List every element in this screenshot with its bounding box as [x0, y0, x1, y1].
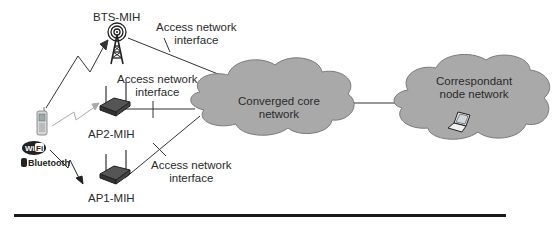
wireless-link-bts — [46, 40, 108, 108]
cell-tower-icon — [108, 23, 126, 64]
bts-label: BTS-MIH — [93, 11, 140, 24]
core-network-label: Converged core network — [238, 95, 320, 121]
interface-label-ap2: Access network interface — [117, 73, 198, 99]
interface-tick-ap1 — [153, 143, 166, 156]
horizontal-rule — [14, 214, 506, 217]
interface-label-ap1: Access network interface — [151, 159, 232, 185]
wireless-router-icon-ap1 — [100, 150, 130, 184]
wifi-logo-text-fi: Fi — [36, 144, 43, 153]
wifi-logo-text-wi: Wi — [25, 144, 35, 153]
interface-label-bts: Access network interface — [156, 21, 237, 47]
wireless-link-ap2 — [52, 103, 99, 126]
ap2-label: AP2-MIH — [88, 128, 135, 141]
ap1-label: AP1-MIH — [88, 192, 135, 205]
mobile-phone-icon — [37, 107, 47, 135]
bluetooth-logo-icon — [21, 158, 27, 167]
bluetooth-logo-text: Bluetooth — [28, 158, 70, 168]
correspondent-network-label: Correspondant node network — [436, 75, 512, 101]
